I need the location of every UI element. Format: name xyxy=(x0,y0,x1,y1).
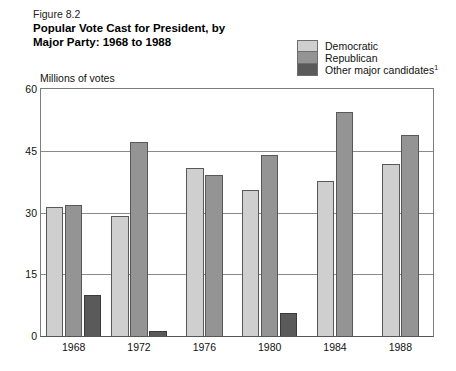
bar-group: 1984 xyxy=(317,89,354,336)
y-axis-tick-label: 15 xyxy=(25,269,37,280)
y-axis-tick-label: 60 xyxy=(25,84,37,95)
x-axis-tick-label: 1968 xyxy=(62,341,85,353)
bar xyxy=(149,331,167,336)
legend-item-label: Democratic xyxy=(325,40,378,52)
x-axis-tick-label: 1984 xyxy=(323,341,346,353)
figure-label: Figure 8.2 xyxy=(33,8,80,21)
legend-item: Democratic xyxy=(297,40,438,52)
legend-footnote-marker: 1 xyxy=(434,64,438,71)
bar xyxy=(84,295,102,336)
bar xyxy=(111,216,129,336)
x-axis-tick-label: 1976 xyxy=(193,341,216,353)
bar-group: 1980 xyxy=(242,89,298,336)
bar-group: 1972 xyxy=(111,89,167,336)
x-axis-tick-label: 1980 xyxy=(258,341,281,353)
x-axis-tick-label: 1972 xyxy=(127,341,150,353)
y-axis-tick-label: 45 xyxy=(25,145,37,156)
legend-item: Other major candidates1 xyxy=(297,64,438,76)
bar xyxy=(336,112,354,336)
chart-title-line-1: Popular Vote Cast for President, by xyxy=(33,21,303,35)
page-title: Popular Vote Cast for President, by Majo… xyxy=(33,21,303,49)
bar xyxy=(242,190,260,336)
legend-item: Republican xyxy=(297,52,438,64)
bar xyxy=(65,205,83,336)
legend-swatch-icon xyxy=(297,40,318,52)
y-axis-title: Millions of votes xyxy=(40,72,115,84)
bar xyxy=(205,175,223,336)
bar xyxy=(280,313,298,336)
x-axis-tick-label: 1988 xyxy=(389,341,412,353)
bar-group: 1968 xyxy=(46,89,102,336)
chart-legend: DemocraticRepublicanOther major candidat… xyxy=(297,40,438,76)
chart-title-line-2: Major Party: 1968 to 1988 xyxy=(33,35,303,49)
legend-item-label: Other major candidates1 xyxy=(325,64,438,76)
y-axis-tick-label: 30 xyxy=(25,207,37,218)
bar xyxy=(382,164,400,336)
bars-layer: 196819721976198019841988 xyxy=(41,89,433,336)
bar xyxy=(186,168,204,336)
bar xyxy=(317,181,335,336)
legend-item-label: Republican xyxy=(325,52,378,64)
bar xyxy=(261,155,279,336)
legend-swatch-icon xyxy=(297,64,318,76)
bar xyxy=(401,135,419,336)
bar-group: 1976 xyxy=(186,89,223,336)
bar xyxy=(46,207,64,336)
legend-swatch-icon xyxy=(297,52,318,64)
chart-plot-area: 015304560 196819721976198019841988 xyxy=(40,88,434,337)
bar xyxy=(130,142,148,336)
bar-group: 1988 xyxy=(382,89,419,336)
y-axis-tick-label: 0 xyxy=(31,331,37,342)
